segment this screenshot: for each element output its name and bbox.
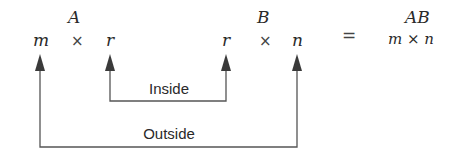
inside-label: Inside <box>149 81 189 96</box>
arrow-up-icon-r-b <box>221 54 231 71</box>
arrow-up-icon-n <box>292 54 302 71</box>
arrow-up-icon-m <box>35 54 45 71</box>
dimension-brackets <box>0 0 475 159</box>
arrowheads <box>35 54 302 71</box>
outside-label: Outside <box>143 126 195 141</box>
arrow-up-icon-r-a <box>105 54 115 71</box>
